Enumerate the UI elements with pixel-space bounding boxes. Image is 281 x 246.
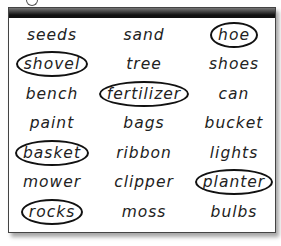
word-cell: seeds	[9, 20, 95, 50]
word: seeds	[19, 22, 85, 48]
circled-word: planter	[195, 169, 273, 195]
word: tree	[118, 51, 170, 77]
word: bulbs	[203, 199, 266, 225]
word: bags	[115, 110, 172, 136]
circled-word: hoe	[210, 22, 258, 48]
word-cell: rocks	[9, 197, 95, 227]
word: sand	[115, 22, 172, 48]
word: lights	[202, 140, 266, 166]
word-cell: tree	[95, 50, 193, 80]
word-grid: seeds sand hoe shovel tree shoes bench f…	[9, 18, 275, 227]
word: paint	[22, 110, 83, 136]
word: bucket	[197, 110, 272, 136]
word: ribbon	[108, 140, 180, 166]
circled-word: rocks	[21, 199, 83, 225]
circled-word: shovel	[16, 51, 88, 77]
word-list-card: seeds sand hoe shovel tree shoes bench f…	[8, 7, 276, 233]
word-cell: basket	[9, 138, 95, 168]
word: can	[211, 81, 258, 107]
word-cell: hoe	[193, 20, 275, 50]
cropped-glyph-fragment	[26, 0, 38, 6]
circled-word: basket	[15, 140, 89, 166]
word-cell: can	[193, 79, 275, 109]
word-cell: paint	[9, 109, 95, 139]
word-cell: bags	[95, 109, 193, 139]
word-cell: ribbon	[95, 138, 193, 168]
word: clipper	[106, 169, 182, 195]
word: bench	[18, 81, 87, 107]
word-cell: lights	[193, 138, 275, 168]
word-cell: planter	[193, 168, 275, 198]
circled-word: fertilizer	[99, 81, 189, 107]
word-cell: bench	[9, 79, 95, 109]
word-cell: moss	[95, 197, 193, 227]
word: moss	[114, 199, 175, 225]
word-cell: fertilizer	[95, 79, 193, 109]
card-header-bar	[9, 8, 275, 18]
word: mower	[15, 169, 89, 195]
word-cell: shoes	[193, 50, 275, 80]
word-cell: bucket	[193, 109, 275, 139]
word-cell: bulbs	[193, 197, 275, 227]
word-cell: mower	[9, 168, 95, 198]
word: shoes	[201, 51, 267, 77]
word-cell: clipper	[95, 168, 193, 198]
word-cell: shovel	[9, 50, 95, 80]
word-cell: sand	[95, 20, 193, 50]
